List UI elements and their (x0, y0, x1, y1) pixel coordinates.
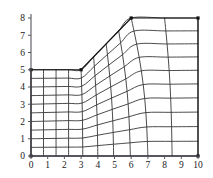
y-tick-label: 2 (20, 117, 25, 127)
x-tick-label: 2 (62, 160, 67, 170)
mesh-plot-svg: 012345678910012345678 (0, 0, 213, 178)
y-tick-label: 3 (20, 100, 25, 110)
corner-marker (196, 16, 199, 19)
x-tick-label: 4 (95, 160, 100, 170)
mesh-line-vertical (131, 18, 148, 156)
mesh-line-vertical (81, 70, 83, 156)
mesh-grid-layer (31, 17, 198, 156)
x-tick-label: 5 (112, 160, 117, 170)
x-tick-label: 7 (146, 160, 151, 170)
y-tick-label: 6 (20, 48, 25, 58)
mesh-line-vertical (165, 18, 173, 156)
axis-tick-label-layer: 012345678910012345678 (20, 13, 203, 170)
y-tick-label: 0 (20, 151, 25, 161)
y-tick-label: 8 (20, 13, 25, 23)
x-tick-label: 10 (193, 160, 203, 170)
y-tick-label: 4 (20, 82, 25, 92)
x-tick-label: 3 (79, 160, 84, 170)
corner-marker (80, 68, 83, 71)
corner-marker (130, 16, 133, 19)
x-tick-label: 6 (129, 160, 134, 170)
y-tick-label: 5 (20, 65, 25, 75)
y-tick-label: 7 (20, 31, 25, 41)
mesh-figure: 012345678910012345678 (0, 0, 213, 178)
y-tick-label: 1 (20, 134, 25, 144)
x-tick-label: 9 (179, 160, 184, 170)
mesh-line-vertical (119, 31, 131, 156)
x-tick-label: 8 (162, 160, 167, 170)
x-tick-label: 1 (45, 160, 50, 170)
x-tick-label: 0 (29, 160, 34, 170)
